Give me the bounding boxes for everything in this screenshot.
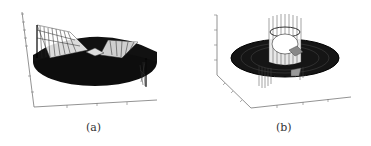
figure-panel-a: (a): [0, 0, 185, 146]
caption-b: (b): [276, 121, 292, 134]
caption-a: (a): [86, 121, 101, 134]
figure-panel-b: (b): [185, 0, 371, 146]
